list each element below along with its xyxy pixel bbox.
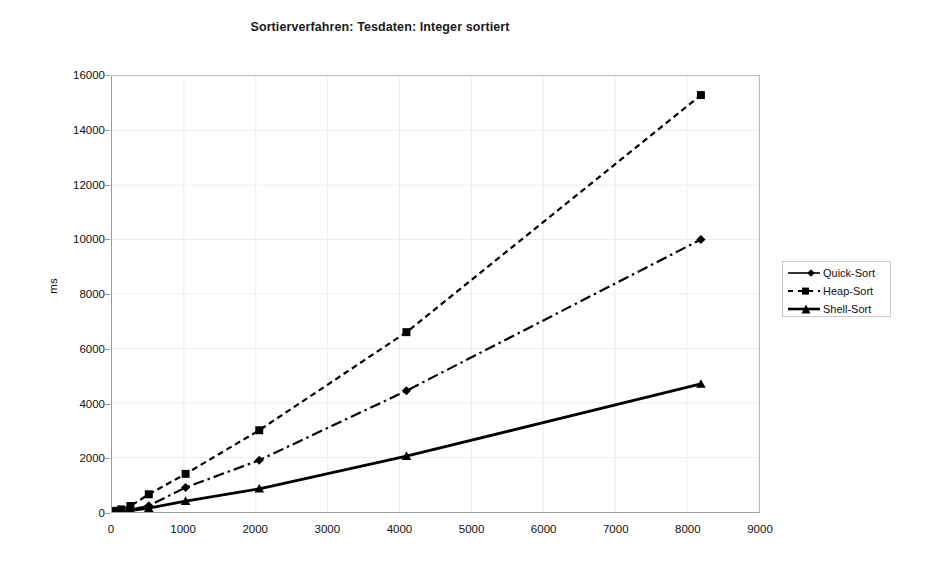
x-tick-label: 5000: [437, 523, 507, 535]
legend-item-shell-sort[interactable]: Shell-Sort: [787, 300, 888, 318]
plot-area: [111, 75, 760, 513]
legend-item-quick-sort[interactable]: Quick-Sort: [787, 264, 888, 282]
data-point-marker: [145, 490, 153, 498]
series-line: [113, 384, 701, 512]
legend-label-quick-sort: Quick-Sort: [823, 267, 875, 279]
legend-label-shell-sort: Shell-Sort: [823, 303, 871, 315]
x-tick-label: 7000: [581, 523, 651, 535]
series-line: [113, 240, 701, 512]
y-tick-mark: [105, 294, 110, 295]
data-point-marker: [182, 470, 190, 478]
x-tick-label: 9000: [725, 523, 795, 535]
data-point-marker: [255, 426, 263, 434]
y-tick-mark: [105, 185, 110, 186]
y-tick-mark: [105, 239, 110, 240]
chart-container: Sortierverfahren: Tesdaten: Integer sort…: [0, 0, 939, 582]
series-quick-sort: [112, 235, 705, 512]
x-tick-label: 2000: [220, 523, 290, 535]
legend-swatch-shell-sort: [787, 302, 821, 316]
x-tick-label: 6000: [509, 523, 579, 535]
legend-item-heap-sort[interactable]: Heap-Sort: [787, 282, 888, 300]
x-tick-label: 0: [76, 523, 146, 535]
y-tick-mark: [105, 130, 110, 131]
x-tick-label: 4000: [364, 523, 434, 535]
data-point-marker: [402, 386, 411, 395]
x-tick-label: 8000: [653, 523, 723, 535]
series-line: [113, 95, 701, 512]
data-point-marker: [255, 456, 264, 465]
legend-label-heap-sort: Heap-Sort: [823, 285, 873, 297]
data-series-layer: [112, 76, 759, 512]
legend-swatch-heap-sort: [787, 284, 821, 298]
data-point-marker: [402, 328, 410, 336]
data-point-marker: [181, 483, 190, 492]
y-tick-mark: [105, 458, 110, 459]
x-tick-label: 1000: [148, 523, 218, 535]
series-heap-sort: [112, 91, 705, 512]
series-shell-sort: [112, 379, 706, 512]
y-tick-mark: [105, 349, 110, 350]
chart-legend: Quick-Sort Heap-Sort Shell-Sort: [782, 261, 891, 317]
data-point-marker: [696, 235, 705, 244]
data-point-marker: [697, 91, 705, 99]
x-tick-label: 3000: [292, 523, 362, 535]
y-tick-mark: [105, 513, 110, 514]
y-tick-mark: [105, 75, 110, 76]
y-tick-mark: [105, 404, 110, 405]
chart-title: Sortierverfahren: Tesdaten: Integer sort…: [0, 20, 760, 34]
legend-swatch-quick-sort: [787, 266, 821, 280]
y-axis-tick-marks: [0, 75, 115, 513]
x-axis-tick-labels: 0100020003000400050006000700080009000: [111, 523, 760, 543]
